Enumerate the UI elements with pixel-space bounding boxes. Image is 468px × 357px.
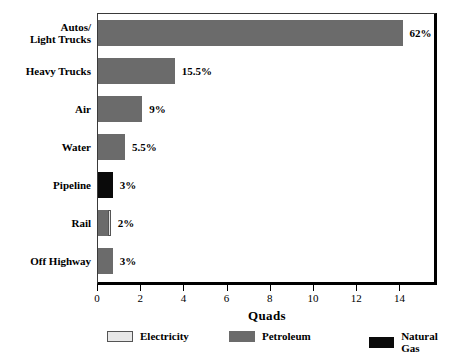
legend-swatch-electricity	[107, 331, 133, 342]
bar-row: 2%	[98, 204, 134, 242]
x-tick-label: 4	[181, 292, 187, 304]
bar-row: 9%	[98, 90, 166, 128]
bar[interactable]	[98, 96, 142, 122]
bar-row: 5.5%	[98, 128, 157, 166]
bar-segment-petroleum[interactable]	[98, 248, 113, 274]
x-tick-label: 2	[137, 292, 143, 304]
x-tick-mark	[313, 285, 314, 291]
bar-segment-naturalgas[interactable]	[98, 172, 113, 198]
bar[interactable]	[98, 134, 125, 160]
bar-value-label: 9%	[149, 104, 166, 115]
chart-legend: ElectricityPetroleumNatural Gas	[97, 330, 457, 350]
bars-container: 62%15.5%9%5.5%3%2%3%	[98, 14, 435, 280]
x-axis-title: Quads	[97, 308, 437, 324]
y-axis-category-labels: Autos/Light TrucksHeavy TrucksAirWaterPi…	[0, 14, 91, 280]
bar-row: 3%	[98, 242, 136, 280]
x-tick-mark	[227, 285, 228, 291]
legend-item[interactable]: Petroleum	[229, 330, 311, 342]
bar[interactable]	[98, 210, 111, 236]
x-tick-label: 10	[308, 292, 319, 304]
y-axis-label: Heavy Trucks	[0, 65, 91, 77]
bar[interactable]	[98, 172, 113, 198]
x-tick-label: 12	[351, 292, 362, 304]
x-axis-tick-labels: 02468101214	[97, 292, 437, 308]
bar-chart: Autos/Light TrucksHeavy TrucksAirWaterPi…	[0, 0, 468, 357]
x-tick-mark	[183, 285, 184, 291]
y-axis-label: Water	[0, 141, 91, 153]
bar-segment-petroleum[interactable]	[98, 96, 142, 122]
bar-segment-electricity[interactable]	[108, 210, 111, 236]
y-axis-label: Air	[0, 103, 91, 115]
bar-segment-petroleum[interactable]	[98, 134, 125, 160]
x-tick-mark	[399, 285, 400, 291]
bar-row: 3%	[98, 166, 136, 204]
bar[interactable]	[98, 248, 113, 274]
bar-value-label: 2%	[118, 218, 135, 229]
bar-row: 15.5%	[98, 52, 212, 90]
x-tick-label: 0	[94, 292, 100, 304]
legend-label: Petroleum	[262, 330, 311, 342]
y-axis-label: Pipeline	[0, 179, 91, 191]
bar-value-label: 5.5%	[132, 142, 157, 153]
legend-swatch-naturalgas	[369, 337, 394, 348]
bar-value-label: 15.5%	[182, 66, 212, 77]
x-tick-mark	[97, 285, 98, 291]
legend-item[interactable]: Natural Gas	[369, 330, 457, 354]
legend-swatch-petroleum	[229, 331, 255, 342]
bar-value-label: 62%	[410, 28, 432, 39]
bar-value-label: 3%	[120, 180, 137, 191]
bar-value-label: 3%	[120, 256, 137, 267]
bar[interactable]	[98, 58, 175, 84]
y-axis-label: Autos/Light Trucks	[0, 21, 91, 45]
y-axis-label: Off Highway	[0, 255, 91, 267]
y-axis-label: Rail	[0, 217, 91, 229]
bar[interactable]	[98, 20, 403, 46]
bar-row: 62%	[98, 14, 432, 52]
x-tick-label: 14	[394, 292, 405, 304]
bar-segment-petroleum[interactable]	[98, 58, 175, 84]
legend-item[interactable]: Electricity	[107, 330, 189, 342]
bar-segment-petroleum[interactable]	[98, 210, 108, 236]
legend-label: Natural Gas	[401, 330, 457, 354]
x-tick-label: 6	[224, 292, 230, 304]
x-tick-mark	[140, 285, 141, 291]
legend-label: Electricity	[140, 330, 189, 342]
x-tick-mark	[270, 285, 271, 291]
x-tick-label: 8	[267, 292, 273, 304]
bar-segment-petroleum[interactable]	[98, 20, 403, 46]
x-tick-mark	[356, 285, 357, 291]
